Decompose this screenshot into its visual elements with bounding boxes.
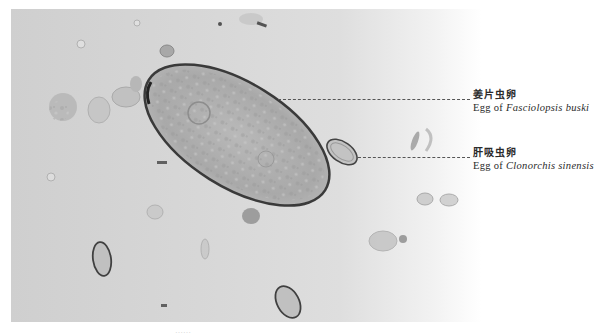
label-en: Egg of Fasciolopsis buski xyxy=(473,101,589,114)
clonorchis-egg-2 xyxy=(91,241,114,277)
clonorchis-egg-3 xyxy=(270,282,305,322)
label-clonorchis: 肝吸虫卵 Egg of Clonorchis sinensis xyxy=(473,147,594,172)
leader-line-clonorchis xyxy=(358,157,470,158)
label-zh: 肝吸虫卵 xyxy=(473,147,594,159)
figure-caption: …… xyxy=(175,326,191,335)
species-name: Clonorchis sinensis xyxy=(506,160,594,171)
label-zh: 姜片虫卵 xyxy=(473,89,589,101)
label-en: Egg of Clonorchis sinensis xyxy=(473,159,594,172)
fasciolopsis-egg xyxy=(121,36,353,234)
micrograph-illustration xyxy=(11,9,481,322)
micrograph-photo xyxy=(11,9,481,322)
label-fasciolopsis: 姜片虫卵 Egg of Fasciolopsis buski xyxy=(473,89,589,114)
species-name: Fasciolopsis buski xyxy=(506,102,589,113)
leader-line-fasciolopsis xyxy=(278,99,470,100)
